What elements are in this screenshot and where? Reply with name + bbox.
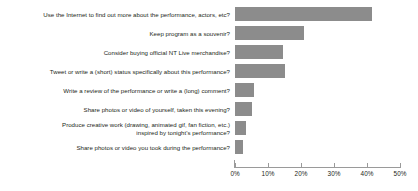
x-axis-tick	[235, 163, 236, 168]
category-label: Share photos or video of yourself, taken…	[84, 106, 232, 114]
bar	[235, 102, 252, 116]
category-label: Produce creative work (drawing, animated…	[62, 121, 232, 136]
x-axis-tick	[367, 163, 368, 168]
category-label: Keep program as a souvenir?	[150, 30, 232, 38]
horizontal-bar-chart: Use the Internet to find out more about …	[0, 0, 418, 191]
category-row: Produce creative work (drawing, animated…	[0, 119, 232, 138]
category-row: Share photos or video of yourself, taken…	[0, 100, 232, 119]
category-row: Write a review of the performance or wri…	[0, 81, 232, 100]
x-axis-tick	[400, 163, 401, 168]
category-row: Share photos or video you took during th…	[0, 138, 232, 157]
plot-area	[235, 0, 400, 191]
category-row: Use the Internet to find out more about …	[0, 5, 232, 24]
bar	[235, 83, 254, 97]
bar	[235, 26, 304, 40]
bar	[235, 45, 283, 59]
x-axis-line	[235, 167, 401, 168]
x-axis-tick-label: 10%	[262, 170, 275, 177]
bar	[235, 7, 372, 21]
bar	[235, 64, 285, 78]
x-axis-tick	[268, 163, 269, 168]
category-labels-column: Use the Internet to find out more about …	[0, 5, 232, 158]
category-label: Consider buying official NT Live merchan…	[104, 49, 232, 57]
category-row: Tweet or write a (short) status specific…	[0, 62, 232, 81]
x-axis-tick-label: 0%	[230, 170, 239, 177]
x-axis-tick	[301, 163, 302, 168]
category-row: Consider buying official NT Live merchan…	[0, 43, 232, 62]
x-axis-tick	[334, 163, 335, 168]
x-axis-tick-label: 50%	[394, 170, 407, 177]
x-axis-tick-label: 30%	[328, 170, 341, 177]
category-row: Keep program as a souvenir?	[0, 24, 232, 43]
category-label: Tweet or write a (short) status specific…	[50, 68, 232, 76]
bar	[235, 140, 243, 154]
bar	[235, 121, 246, 135]
x-axis-tick-label: 40%	[361, 170, 374, 177]
category-label: Use the Internet to find out more about …	[43, 11, 232, 19]
x-axis-tick-label: 20%	[295, 170, 308, 177]
category-label: Write a review of the performance or wri…	[63, 87, 232, 95]
category-label: Share photos or video you took during th…	[76, 144, 232, 152]
